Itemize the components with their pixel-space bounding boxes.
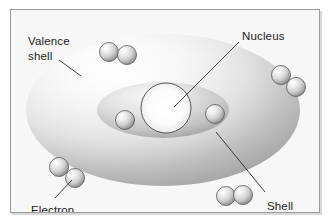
- electron-sphere: [287, 78, 306, 97]
- electron-sphere: [272, 66, 291, 85]
- label-valence-shell-line2: shell: [28, 50, 52, 62]
- electron-sphere: [206, 105, 225, 124]
- electron-sphere: [234, 186, 253, 205]
- atomic-structure-diagram: Valence shell Nucleus Electron Shell: [11, 10, 319, 212]
- electron-sphere: [66, 169, 85, 188]
- electron-sphere: [118, 46, 137, 65]
- label-nucleus: Nucleus: [242, 30, 285, 42]
- label-valence-shell-line1: Valence: [28, 35, 70, 47]
- electron-sphere: [50, 158, 69, 177]
- nucleus-circle: [141, 83, 191, 133]
- electron-sphere: [217, 187, 236, 206]
- label-shell: Shell: [267, 200, 293, 212]
- figure-frame: Valence shell Nucleus Electron Shell: [10, 9, 320, 213]
- figure-root: Valence shell Nucleus Electron Shell: [0, 0, 330, 223]
- electron-sphere: [100, 43, 119, 62]
- label-electron: Electron: [31, 204, 74, 212]
- electron-sphere: [116, 111, 135, 130]
